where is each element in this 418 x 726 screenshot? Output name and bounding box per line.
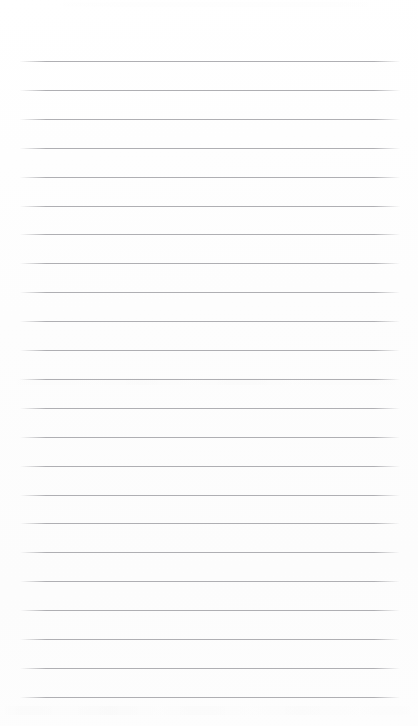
rule-line — [20, 90, 400, 91]
rule-line — [20, 292, 400, 293]
rule-line — [20, 437, 400, 438]
rule-line — [20, 552, 400, 553]
rule-line — [20, 119, 400, 120]
rule-line — [20, 523, 400, 524]
rule-line — [20, 206, 400, 207]
rule-line — [20, 350, 400, 351]
rule-line — [20, 177, 400, 178]
rule-line — [20, 668, 400, 669]
rule-line — [20, 581, 400, 582]
rule-line — [20, 466, 400, 467]
rule-line — [20, 61, 400, 62]
rule-line — [20, 321, 400, 322]
rule-line — [20, 263, 400, 264]
rule-line — [20, 639, 400, 640]
rule-line — [20, 234, 400, 235]
rule-line — [20, 408, 400, 409]
rule-line — [20, 379, 400, 380]
rule-line — [20, 610, 400, 611]
scanned-page — [0, 0, 418, 726]
rule-line — [20, 495, 400, 496]
rule-line — [20, 148, 400, 149]
ruled-lines-layer — [0, 0, 418, 726]
rule-line — [20, 697, 400, 698]
